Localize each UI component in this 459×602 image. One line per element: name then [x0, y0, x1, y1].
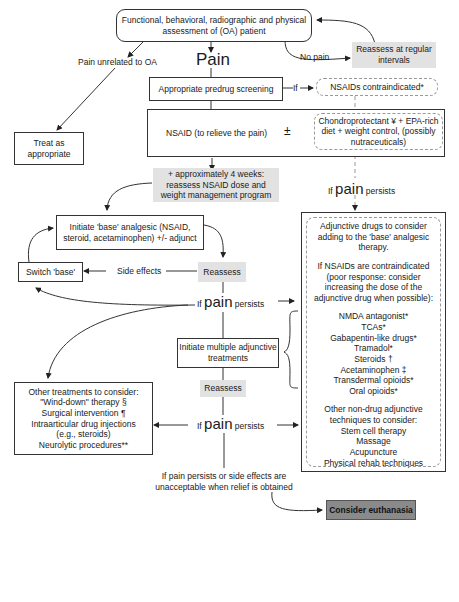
other-treatments-node: Other treatments to consider: "Wind-down…	[14, 382, 153, 455]
initiate-base-node: Initiate 'base' analgesic (NSAID, steroi…	[56, 215, 204, 250]
pain-unrelated-label: Pain unrelated to OA	[78, 57, 157, 67]
predrug-screening-node: Appropriate predrug screening	[149, 77, 283, 101]
side-effects-label: Side effects	[117, 266, 161, 276]
reassess-node-2: Reassess	[200, 380, 246, 397]
final-condition-label: If pain persists or side effects are una…	[148, 470, 300, 494]
nsaid-label: NSAID (to relieve the pain)	[166, 128, 267, 139]
four-weeks-node: + approximately 4 weeks: reassess NSAID …	[153, 168, 279, 202]
pain-label: Pain	[196, 50, 230, 70]
consider-euthanasia-node: Consider euthanasia	[326, 500, 416, 520]
adjunctive-dashed-inner	[306, 217, 441, 467]
reassess-regular-node: Reassess at regular intervals	[352, 42, 436, 68]
plus-minus-symbol: ±	[284, 124, 291, 139]
no-pain-label: No pain	[300, 52, 329, 62]
initiate-multiple-node: Initiate multiple adjunctive treatments	[177, 338, 279, 368]
chondroprotectant-node: Chondroprotectant ¥ + EPA-rich diet + we…	[314, 113, 443, 150]
if-pain-persists-1: If pain persists	[328, 180, 395, 198]
adjunctive-drugs-node: Adjunctive drugs to consider adding to t…	[301, 212, 446, 472]
if-label: If	[293, 83, 298, 93]
switch-base-node: Switch 'base'	[18, 262, 83, 282]
reassess-node-1: Reassess	[198, 262, 246, 282]
nsaids-contraindicated-node: NSAIDs contraindicated*	[316, 78, 438, 96]
if-pain-persists-3: If pain persists	[197, 415, 264, 433]
assessment-node: Functional, behavioral, radiographic and…	[116, 9, 312, 42]
if-pain-persists-2: If pain persists	[197, 293, 264, 311]
treat-as-appropriate-node: Treat as appropriate	[14, 132, 84, 165]
